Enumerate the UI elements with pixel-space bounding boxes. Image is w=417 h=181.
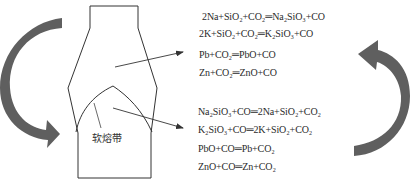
reaction-lhs: ZnO+CO	[198, 161, 235, 172]
reaction-rhs: Pb+CO₂	[242, 143, 275, 154]
reaction-lhs: PbO+CO	[198, 143, 235, 154]
lower-reaction-2: K₂SiO₃+CO═2K+SiO₂+CO₂	[198, 124, 312, 136]
upper-reaction-1: 2Na+SiO₂+CO₂═Na₂SiO₃+CO	[202, 11, 325, 23]
reaction-lhs: K₂SiO₃+CO	[198, 124, 246, 135]
left-circulation-arrow-icon	[0, 18, 62, 148]
reaction-rhs: PbO+CO	[239, 49, 276, 60]
equals-sign: ═	[235, 143, 242, 154]
reaction-rhs: K₂SiO₃+CO	[265, 28, 313, 39]
upper-pointer-arrow	[115, 52, 183, 67]
reaction-lhs: 2K+SiO₂+CO₂	[199, 28, 258, 39]
soft-melt-zone-arch	[76, 86, 152, 132]
equals-sign: ═	[258, 28, 265, 39]
reaction-rhs: 2Na+SiO₂+CO₂	[258, 106, 321, 117]
lower-reaction-1: Na₂SiO₃+CO═2Na+SiO₂+CO₂	[198, 106, 321, 118]
zone-label-leader	[94, 103, 101, 128]
lower-reaction-3: PbO+CO═Pb+CO₂	[198, 143, 275, 155]
upper-reaction-2: 2K+SiO₂+CO₂═K₂SiO₃+CO	[199, 28, 313, 40]
furnace-outline	[68, 6, 157, 178]
reaction-rhs: Na₂SiO₃+CO	[272, 11, 325, 22]
reaction-lhs: Pb+CO₂	[199, 49, 232, 60]
equals-sign: ═	[232, 49, 239, 60]
reaction-lhs: 2Na+SiO₂+CO₂	[202, 11, 265, 22]
reaction-rhs: 2K+SiO₂+CO₂	[253, 124, 312, 135]
lower-reaction-4: ZnO+CO═Zn+CO₂	[198, 161, 276, 173]
right-circulation-arrow-icon	[354, 40, 410, 156]
soft-melt-zone-label: 软熔带	[92, 130, 122, 145]
upper-reaction-3: Pb+CO₂═PbO+CO	[199, 49, 276, 61]
reaction-lhs: Na₂SiO₃+CO	[198, 106, 251, 117]
reaction-lhs: Zn+CO₂	[199, 67, 233, 78]
reaction-rhs: Zn+CO₂	[242, 161, 276, 172]
upper-reaction-4: Zn+CO₂═ZnO+CO	[199, 67, 277, 79]
equals-sign: ═	[233, 67, 240, 78]
equals-sign: ═	[251, 106, 258, 117]
reaction-rhs: ZnO+CO	[240, 67, 277, 78]
